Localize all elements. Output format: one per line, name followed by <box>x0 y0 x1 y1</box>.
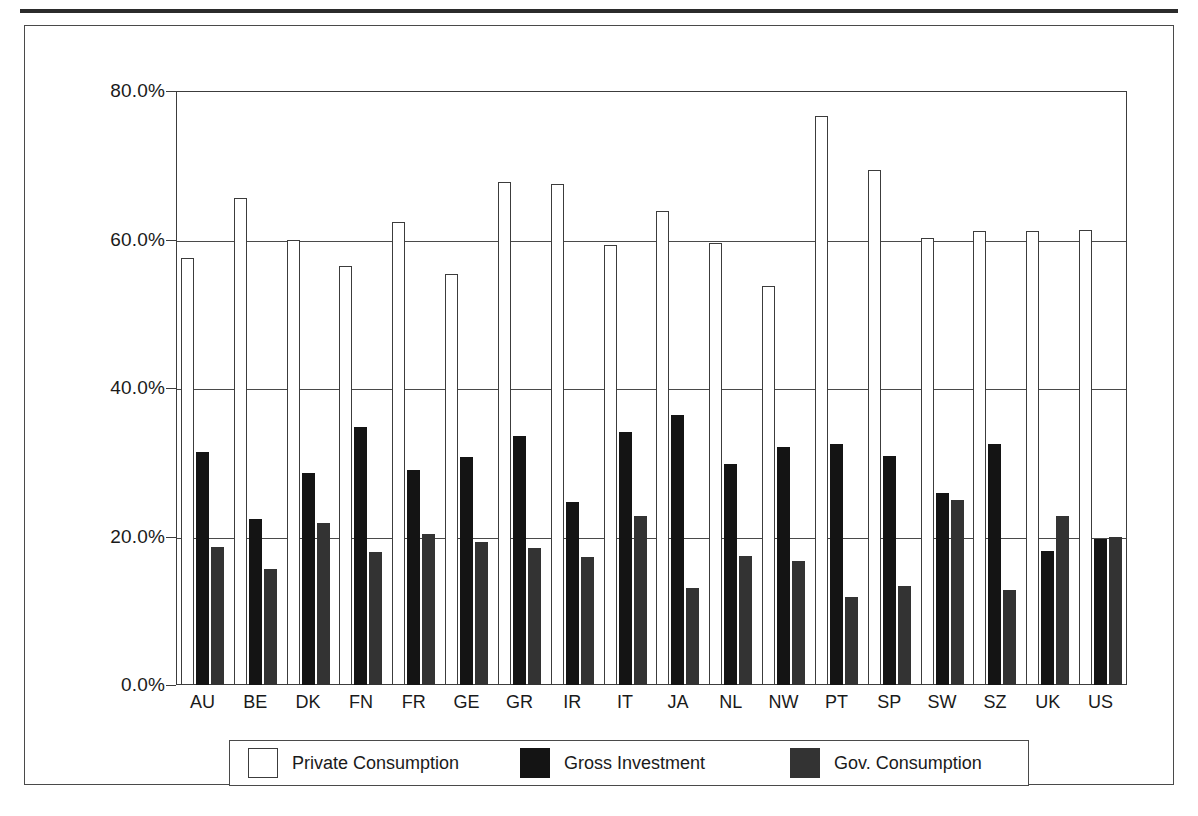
bar[interactable] <box>264 569 277 685</box>
legend-swatch-icon <box>520 748 550 778</box>
bar[interactable] <box>1003 590 1016 685</box>
legend-swatch-icon <box>248 748 278 778</box>
bar[interactable] <box>868 170 881 685</box>
legend-swatch-icon <box>790 748 820 778</box>
bar[interactable] <box>845 597 858 685</box>
y-axis-tick-mark <box>166 91 176 92</box>
y-axis-tick-label: 0.0% <box>121 674 165 696</box>
bar[interactable] <box>407 470 420 685</box>
legend-entry[interactable]: Gov. Consumption <box>790 748 982 778</box>
chart-page: 0.0%20.0%40.0%60.0%80.0% AUBEDKFNFRGEGRI… <box>0 0 1198 816</box>
bar[interactable] <box>830 444 843 685</box>
bar[interactable] <box>1079 230 1092 685</box>
bar[interactable] <box>815 116 828 685</box>
x-axis-tick-label: IR <box>563 692 581 713</box>
legend-entry[interactable]: Gross Investment <box>520 748 705 778</box>
x-axis-tick-label: DK <box>296 692 321 713</box>
bar-group <box>339 91 382 685</box>
x-axis-tick-label: UK <box>1035 692 1060 713</box>
figure-frame: 0.0%20.0%40.0%60.0%80.0% AUBEDKFNFRGEGRI… <box>24 25 1174 785</box>
y-axis-tick-label: 80.0% <box>110 80 165 102</box>
bar[interactable] <box>211 547 224 685</box>
bar[interactable] <box>249 519 262 685</box>
y-axis-tick-mark <box>166 537 176 538</box>
bar[interactable] <box>354 427 367 685</box>
bar[interactable] <box>302 473 315 685</box>
bar[interactable] <box>951 500 964 685</box>
bar[interactable] <box>739 556 752 685</box>
bar[interactable] <box>724 464 737 685</box>
bar[interactable] <box>921 238 934 685</box>
legend-label: Gov. Consumption <box>834 753 982 774</box>
bar-group <box>656 91 699 685</box>
x-axis-tick-label: PT <box>825 692 848 713</box>
bar[interactable] <box>392 222 405 685</box>
x-axis-tick-label: NW <box>769 692 799 713</box>
x-axis-tick-label: GE <box>454 692 480 713</box>
bar[interactable] <box>234 198 247 685</box>
bar-group <box>815 91 858 685</box>
bar-group <box>287 91 330 685</box>
bar[interactable] <box>181 258 194 685</box>
bar[interactable] <box>777 447 790 685</box>
y-axis-tick-label: 60.0% <box>110 229 165 251</box>
bar-group <box>392 91 435 685</box>
bar[interactable] <box>686 588 699 685</box>
x-axis-tick-label: SZ <box>983 692 1006 713</box>
x-axis-tick-label: FR <box>402 692 426 713</box>
bar[interactable] <box>973 231 986 685</box>
bar-group <box>709 91 752 685</box>
bar-group <box>181 91 224 685</box>
bar[interactable] <box>1026 231 1039 685</box>
bars-layer <box>176 91 1127 685</box>
legend-entry[interactable]: Private Consumption <box>248 748 459 778</box>
bar[interactable] <box>581 557 594 685</box>
x-axis-tick-label: IT <box>617 692 633 713</box>
x-axis-tick-label: NL <box>719 692 742 713</box>
bar[interactable] <box>604 245 617 685</box>
x-axis-tick-label: BE <box>243 692 267 713</box>
top-rule-divider <box>20 9 1178 13</box>
bar[interactable] <box>369 552 382 685</box>
bar[interactable] <box>1041 551 1054 685</box>
bar[interactable] <box>339 266 352 685</box>
x-axis-tick-label: AU <box>190 692 215 713</box>
bar[interactable] <box>1109 537 1122 685</box>
bar[interactable] <box>422 534 435 685</box>
bar-group <box>234 91 277 685</box>
chart-legend: Private ConsumptionGross InvestmentGov. … <box>229 740 1029 786</box>
bar[interactable] <box>792 561 805 685</box>
bar[interactable] <box>898 586 911 685</box>
x-axis-tick-label: SP <box>877 692 901 713</box>
bar-group <box>762 91 805 685</box>
bar[interactable] <box>317 523 330 685</box>
bar[interactable] <box>528 548 541 685</box>
y-axis-tick-mark <box>166 388 176 389</box>
bar[interactable] <box>1056 516 1069 685</box>
bar-group <box>868 91 911 685</box>
bar[interactable] <box>460 457 473 685</box>
bar[interactable] <box>634 516 647 685</box>
bar[interactable] <box>445 274 458 685</box>
x-axis-tick-label: US <box>1088 692 1113 713</box>
bar[interactable] <box>566 502 579 685</box>
bar[interactable] <box>619 432 632 685</box>
bar[interactable] <box>988 444 1001 685</box>
bar[interactable] <box>196 452 209 685</box>
bar[interactable] <box>883 456 896 685</box>
bar[interactable] <box>551 184 564 685</box>
bar[interactable] <box>475 542 488 685</box>
bar[interactable] <box>1094 539 1107 685</box>
bar[interactable] <box>498 182 511 685</box>
bar[interactable] <box>762 286 775 685</box>
bar[interactable] <box>671 415 684 685</box>
legend-label: Gross Investment <box>564 753 705 774</box>
bar[interactable] <box>936 493 949 685</box>
bar-group <box>498 91 541 685</box>
bar[interactable] <box>709 243 722 685</box>
bar[interactable] <box>656 211 669 685</box>
bar[interactable] <box>513 436 526 685</box>
bar[interactable] <box>287 240 300 686</box>
y-axis-tick-mark <box>166 240 176 241</box>
x-axis-tick-label: FN <box>349 692 373 713</box>
